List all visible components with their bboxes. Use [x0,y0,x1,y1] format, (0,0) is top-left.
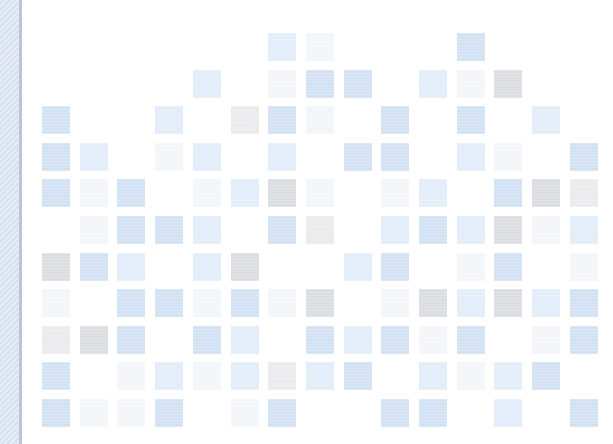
mosaic-tile [494,179,522,207]
mosaic-tile [419,179,447,207]
mosaic-tile [419,326,447,354]
mosaic-tile [570,326,598,354]
mosaic-tile [306,362,334,390]
mosaic-tile [231,326,259,354]
mosaic-tile [381,253,409,281]
mosaic-tile [494,143,522,171]
mosaic-tile [42,143,70,171]
mosaic-tile [231,253,259,281]
mosaic-tile [306,289,334,317]
mosaic-tile [42,253,70,281]
mosaic-tile [570,399,598,427]
mosaic-tile [117,253,145,281]
mosaic-tile [42,289,70,317]
mosaic-tile [155,399,183,427]
mosaic-tile [268,216,296,244]
mosaic-tile [268,106,296,134]
mosaic-tile [306,216,334,244]
mosaic-tile [306,33,334,61]
mosaic-tile [231,289,259,317]
mosaic-tile [532,289,560,317]
mosaic-tile [193,253,221,281]
mosaic-tile [344,253,372,281]
mosaic-tile [344,326,372,354]
mosaic-tile [268,362,296,390]
mosaic-tile [231,106,259,134]
mosaic-tile [457,253,485,281]
mosaic-tile [42,399,70,427]
mosaic-tile [306,106,334,134]
mosaic-tile [42,106,70,134]
mosaic-tile [419,362,447,390]
mosaic-tile [419,289,447,317]
mosaic-tile [381,143,409,171]
mosaic-tile [457,289,485,317]
mosaic-tile [457,143,485,171]
mosaic-tile [457,216,485,244]
mosaic-tile [117,179,145,207]
mosaic-tile [494,399,522,427]
mosaic-tile [570,289,598,317]
mosaic-tile [80,326,108,354]
mosaic-tile [306,179,334,207]
mosaic-tile [268,33,296,61]
mosaic-tile [193,289,221,317]
mosaic-tile [532,106,560,134]
mosaic-tile [457,326,485,354]
mosaic-tile [117,326,145,354]
mosaic-tile [306,70,334,98]
mosaic-tile [268,143,296,171]
mosaic-tile [419,70,447,98]
mosaic-tile [80,179,108,207]
mosaic-tile [268,289,296,317]
mosaic-tile [570,253,598,281]
mosaic-tile [155,143,183,171]
mosaic-tile [117,399,145,427]
mosaic-tile [42,326,70,354]
mosaic-tile [381,106,409,134]
mosaic-tile [117,289,145,317]
mosaic-tile [532,362,560,390]
mosaic-tile [193,70,221,98]
mosaic-tile [344,70,372,98]
mosaic-tile [155,216,183,244]
mosaic-tile [306,326,334,354]
mosaic-tile [117,362,145,390]
mosaic-tile [42,179,70,207]
tile-mosaic [0,0,613,444]
mosaic-tile [494,253,522,281]
mosaic-tile [193,216,221,244]
mosaic-tile [155,106,183,134]
mosaic-tile [268,399,296,427]
mosaic-tile [381,399,409,427]
mosaic-tile [80,216,108,244]
mosaic-tile [532,179,560,207]
mosaic-tile [457,70,485,98]
mosaic-tile [193,143,221,171]
mosaic-tile [193,326,221,354]
mosaic-tile [80,143,108,171]
mosaic-tile [494,70,522,98]
mosaic-tile [268,70,296,98]
mosaic-tile [494,362,522,390]
mosaic-tile [457,106,485,134]
mosaic-tile [193,362,221,390]
mosaic-tile [381,216,409,244]
mosaic-tile [155,362,183,390]
mosaic-tile [344,362,372,390]
mosaic-tile [419,216,447,244]
mosaic-tile [570,216,598,244]
mosaic-tile [80,253,108,281]
mosaic-tile [457,33,485,61]
mosaic-tile [570,143,598,171]
mosaic-tile [155,289,183,317]
mosaic-tile [231,362,259,390]
mosaic-tile [532,216,560,244]
mosaic-tile [117,216,145,244]
mosaic-tile [231,179,259,207]
mosaic-tile [231,399,259,427]
mosaic-tile [570,179,598,207]
mosaic-tile [381,326,409,354]
mosaic-tile [80,399,108,427]
mosaic-tile [457,362,485,390]
